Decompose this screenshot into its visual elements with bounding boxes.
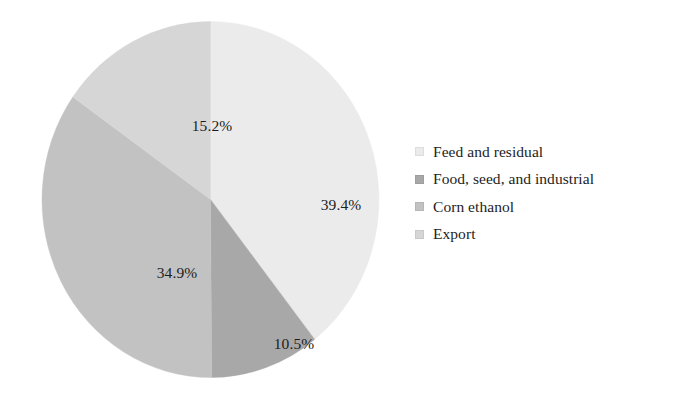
legend-label-food-seed-and-industrial: Food, seed, and industrial — [433, 170, 594, 188]
slice-value-label-feed-and-residual: 39.4% — [321, 196, 362, 214]
legend-swatch-icon-food-seed-and-industrial — [415, 175, 424, 184]
legend-label-feed-and-residual: Feed and residual — [433, 143, 543, 161]
chart-legend: Feed and residual Food, seed, and indust… — [415, 138, 677, 248]
legend-swatch-icon-feed-and-residual — [415, 147, 424, 156]
slice-value-label-export: 15.2% — [192, 117, 233, 135]
legend-item-feed-and-residual[interactable]: Feed and residual — [415, 138, 677, 166]
pie-chart-figure: 39.4% 10.5% 34.9% 15.2% Feed and residua… — [0, 0, 688, 396]
legend-swatch-icon-export — [415, 230, 424, 239]
legend-label-export: Export — [433, 225, 476, 243]
legend-item-food-seed-and-industrial[interactable]: Food, seed, and industrial — [415, 166, 677, 194]
legend-swatch-icon-corn-ethanol — [415, 202, 424, 211]
legend-label-corn-ethanol: Corn ethanol — [433, 198, 514, 216]
slice-value-label-corn-ethanol: 34.9% — [157, 264, 198, 282]
legend-item-corn-ethanol[interactable]: Corn ethanol — [415, 193, 677, 221]
legend-item-export[interactable]: Export — [415, 221, 677, 249]
pie-chart-plot-area: 39.4% 10.5% 34.9% 15.2% — [41, 21, 381, 379]
slice-value-label-food-seed-and-industrial: 10.5% — [274, 335, 315, 353]
